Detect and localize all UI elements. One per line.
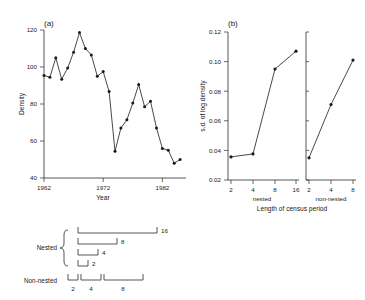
nested-span-16-label: 16 — [161, 227, 168, 234]
panel-b-ytick-012: 0.12 — [209, 28, 222, 35]
figure-svg: (a) 40 60 80 100 120 1962 1972 1982 Ye — [0, 0, 365, 300]
panel-b-ytick-008: 0.08 — [209, 88, 222, 95]
panel-b-y-ticks: 0.02 0.04 0.06 0.08 0.10 0.12 — [209, 28, 228, 183]
non-nested-span-2-label: 2 — [71, 285, 75, 292]
nested-sublabel: nested — [253, 195, 272, 202]
figure-canvas: (a) 40 60 80 100 120 1962 1972 1982 Ye — [0, 0, 365, 300]
nested-span-8: 8 — [78, 238, 125, 245]
nested-xtick-16: 16 — [293, 186, 300, 193]
panel-b-ytick-002: 0.02 — [209, 176, 222, 183]
non-nested-sublabel: non-nested — [316, 195, 348, 202]
panel-b: (b) 0.02 0.04 0.06 0.08 0.10 0.12 s.d. o… — [199, 19, 356, 213]
panel-a: (a) 40 60 80 100 120 1962 1972 1982 Ye — [18, 19, 186, 201]
non-nested-xtick-2: 2 — [307, 186, 311, 193]
non-nested-xtick-8: 8 — [351, 186, 355, 193]
panel-b-y-axis-title: s.d. of log density — [199, 80, 207, 132]
non-nested-spans: 2 4 8 — [68, 274, 143, 292]
panel-a-x-axis-title: Year — [96, 194, 110, 201]
nested-span-2: 2 — [78, 260, 96, 267]
panel-a-data-points — [43, 31, 182, 165]
panel-b-x-axis-title: Length of census period — [257, 205, 328, 213]
non-nested-xtick-4: 4 — [329, 186, 333, 193]
panel-a-xtick-1972: 1972 — [96, 184, 110, 191]
nested-xtick-4: 4 — [251, 186, 255, 193]
nested-data-points — [229, 50, 297, 159]
nested-span-2-label: 2 — [92, 260, 96, 267]
schematic-label-non-nested: Non-nested — [24, 277, 57, 284]
panel-a-ytick-60: 60 — [30, 137, 37, 144]
non-nested-span-4-label: 4 — [89, 285, 93, 292]
panel-b-label: (b) — [228, 19, 238, 28]
nested-span-8-label: 8 — [121, 238, 125, 245]
nested-span-16: 16 — [78, 227, 168, 234]
non-nested-series-line — [309, 60, 353, 158]
panel-b-subpanel-nested: 2 4 8 16 nested — [228, 50, 300, 202]
panel-a-label: (a) — [44, 19, 54, 28]
nested-xtick-2: 2 — [229, 186, 233, 193]
nesting-brace — [60, 230, 68, 266]
nested-xtick-8: 8 — [273, 186, 277, 193]
panel-a-ytick-120: 120 — [27, 26, 38, 33]
nested-span-4: 4 — [78, 249, 106, 256]
non-nested-span-8-label: 8 — [121, 285, 125, 292]
panel-a-x-ticks: 1962 1972 1982 — [37, 178, 170, 191]
panel-b-ytick-006: 0.06 — [209, 117, 222, 124]
nested-span-4-label: 4 — [102, 249, 106, 256]
panel-a-xtick-1962: 1962 — [37, 184, 51, 191]
panel-b-ytick-010: 0.10 — [209, 58, 222, 65]
panel-a-xtick-1982: 1982 — [156, 184, 170, 191]
schematic-label-nested: Nested — [37, 244, 58, 251]
panel-a-y-ticks: 40 60 80 100 120 — [27, 26, 44, 181]
panel-b-subpanel-non-nested: 2 4 8 non-nested — [306, 32, 356, 202]
nested-series-line — [231, 51, 296, 157]
panel-a-series-line — [44, 33, 180, 164]
panel-a-ytick-100: 100 — [27, 63, 38, 70]
panel-a-ytick-40: 40 — [30, 174, 37, 181]
panel-a-ytick-80: 80 — [30, 100, 37, 107]
panel-a-y-axis-title: Density — [18, 92, 26, 115]
panel-b-ytick-004: 0.04 — [209, 147, 222, 154]
nesting-schematic: Nested Non-nested 16 8 4 2 2 4 8 — [24, 227, 168, 292]
